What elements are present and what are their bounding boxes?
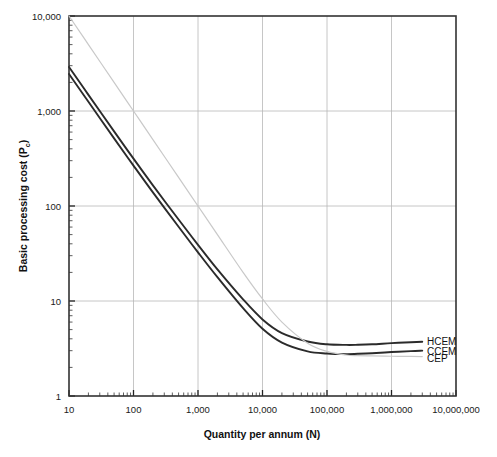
y-axis-title-tail: ) bbox=[17, 140, 29, 144]
x-tick-label: 10 bbox=[64, 404, 75, 415]
curve-labels: HCEMCCEMCEP bbox=[427, 336, 456, 364]
x-axis-title: Quantity per annum (N) bbox=[204, 428, 321, 440]
y-tick-label: 100 bbox=[45, 201, 61, 212]
x-axis-tick-labels: 101001,00010,000100,0001,000,00010,000,0… bbox=[64, 404, 480, 415]
x-tick-label: 10,000 bbox=[248, 404, 277, 415]
minor-tick-marks bbox=[69, 20, 453, 396]
svg-text:Basic processing cost (Pc): Basic processing cost (Pc) bbox=[17, 140, 31, 272]
y-tick-label: 1,000 bbox=[37, 106, 61, 117]
curve-cep bbox=[69, 16, 422, 357]
chart-figure: 101001,00010,000100,0001,000,00010,000,0… bbox=[0, 0, 497, 457]
x-tick-label: 100,000 bbox=[310, 404, 344, 415]
x-tick-label: 1,000 bbox=[186, 404, 210, 415]
x-tick-label: 10,000,000 bbox=[432, 404, 480, 415]
y-axis-title: Basic processing cost (Pc) bbox=[17, 140, 31, 272]
y-tick-label: 1 bbox=[56, 391, 61, 402]
data-curves bbox=[69, 16, 422, 357]
y-axis-tick-labels: 1101001,00010,000 bbox=[32, 11, 61, 402]
log-log-chart: 101001,00010,000100,0001,000,00010,000,0… bbox=[0, 0, 497, 457]
x-tick-label: 100 bbox=[126, 404, 142, 415]
curve-ccem bbox=[69, 74, 422, 354]
y-tick-label: 10,000 bbox=[32, 11, 61, 22]
y-tick-label: 10 bbox=[50, 296, 61, 307]
gridlines bbox=[69, 16, 456, 396]
curve-label-cep: CEP bbox=[427, 353, 448, 364]
y-axis-title-main: Basic processing cost (P bbox=[17, 147, 29, 272]
x-tick-label: 1,000,000 bbox=[370, 404, 412, 415]
